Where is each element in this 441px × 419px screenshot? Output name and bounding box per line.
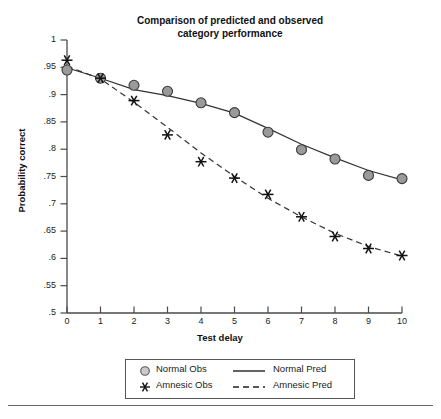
asterisk-marker bbox=[140, 383, 150, 392]
y-tick-label: .55 bbox=[22, 280, 56, 290]
y-tick-label: .8 bbox=[22, 143, 56, 153]
y-tick-label: .65 bbox=[22, 225, 56, 235]
legend-label-normal-pred: Normal Pred bbox=[273, 364, 326, 374]
x-tick-label: 0 bbox=[57, 316, 77, 326]
x-tick-label: 9 bbox=[359, 316, 379, 326]
circle-marker bbox=[141, 367, 150, 376]
y-tick-label: .5 bbox=[22, 307, 56, 317]
legend-label-amnesic-pred: Amnesic Pred bbox=[273, 380, 332, 390]
y-tick-label: .85 bbox=[22, 116, 56, 126]
series-line-amnesic-pred bbox=[67, 66, 402, 256]
x-tick-label: 6 bbox=[258, 316, 278, 326]
y-axis-ticks bbox=[61, 40, 68, 313]
footer-divider bbox=[8, 405, 433, 406]
legend: Normal Obs Amnesic Obs Normal Pred Amnes… bbox=[125, 359, 355, 399]
y-tick-label: .6 bbox=[22, 252, 56, 262]
x-tick-label: 10 bbox=[392, 316, 412, 326]
y-tick-label: .9 bbox=[22, 89, 56, 99]
y-tick-label: .95 bbox=[22, 61, 56, 71]
x-tick-label: 5 bbox=[225, 316, 245, 326]
x-tick-label: 7 bbox=[292, 316, 312, 326]
plot-area bbox=[0, 0, 441, 419]
y-tick-label: .7 bbox=[22, 198, 56, 208]
y-tick-label: .75 bbox=[22, 171, 56, 181]
x-tick-label: 3 bbox=[158, 316, 178, 326]
legend-label-normal-obs: Normal Obs bbox=[156, 364, 207, 374]
figure: Comparison of predicted and observed cat… bbox=[0, 0, 441, 419]
x-tick-label: 4 bbox=[191, 316, 211, 326]
y-tick-label: 1 bbox=[22, 34, 56, 44]
x-tick-label: 1 bbox=[91, 316, 111, 326]
x-axis-ticks bbox=[67, 307, 402, 314]
legend-label-amnesic-obs: Amnesic Obs bbox=[156, 380, 213, 390]
x-tick-label: 8 bbox=[325, 316, 345, 326]
series-line-normal-pred bbox=[67, 68, 402, 180]
series-points-amnesic-obs bbox=[62, 55, 408, 260]
x-tick-label: 2 bbox=[124, 316, 144, 326]
